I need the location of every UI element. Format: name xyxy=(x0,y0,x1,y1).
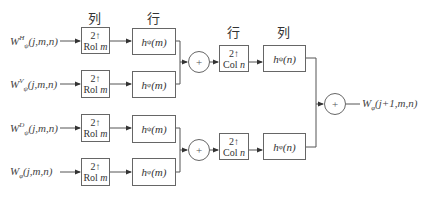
header-column-2: 列 xyxy=(277,22,290,41)
header-column: 列 xyxy=(88,8,101,27)
col-upsampler-1: 2↑ Col n xyxy=(219,45,249,72)
row-upsampler-3: 2↑ Rol m xyxy=(81,114,110,142)
output-label: Wφ(j+1,m,n) xyxy=(362,97,417,112)
adder-top: + xyxy=(188,51,210,73)
row-filter-4: hφ(m) xyxy=(132,158,176,186)
adder-final: + xyxy=(324,93,346,115)
header-row: 行 xyxy=(147,8,160,27)
col-upsampler-2: 2↑ Col n xyxy=(219,133,249,160)
row-upsampler-2: 2↑ Rol m xyxy=(81,70,110,98)
row-filter-2: hφ(m) xyxy=(132,71,176,98)
row-filter-3: hψ(m) xyxy=(132,115,176,143)
input-label-wh: WHψ(j,m,n) xyxy=(10,34,58,50)
input-label-wphi: Wφ(j,m,n) xyxy=(10,165,52,180)
filter-bank-diagram: 列 行 行 列 WHψ(j,m,n) WVψ(j,m,n) WDψ(j,m,n)… xyxy=(0,0,432,199)
row-upsampler-4: 2↑ Rol m xyxy=(81,158,110,186)
input-label-wv: WVψ(j,m,n) xyxy=(10,77,57,93)
input-label-wd: WDψ(j,m,n) xyxy=(10,121,58,137)
col-filter-2: hφ(n) xyxy=(263,133,306,160)
col-filter-1: hψ(n) xyxy=(263,45,306,72)
adder-bottom: + xyxy=(188,139,210,161)
row-upsampler-1: 2↑ Rol m xyxy=(81,27,110,54)
row-filter-1: hψ(m) xyxy=(132,28,176,55)
header-row-2: 行 xyxy=(227,22,240,41)
